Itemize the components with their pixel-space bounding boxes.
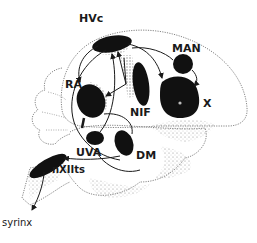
label-uva: UVA [76, 147, 101, 158]
label-nif: NIF [130, 107, 151, 118]
label-dm: DM [136, 150, 156, 161]
song-system-diagram: HVc MAN RA NIF X UVA DM nXIIts syrinx [0, 0, 257, 243]
brain-drawing [0, 0, 257, 243]
label-man: MAN [172, 43, 201, 54]
uva-nucleus [86, 131, 104, 145]
x-nucleus [160, 77, 199, 118]
label-x: X [203, 98, 211, 109]
label-ra: RA [65, 79, 82, 90]
man-nucleus [173, 54, 193, 74]
hvc-nucleus [91, 33, 133, 56]
label-nxiits: nXIIts [52, 165, 85, 175]
label-hvc: HVc [79, 13, 103, 24]
label-syrinx: syrinx [2, 218, 32, 228]
dm-nucleus [111, 128, 137, 159]
